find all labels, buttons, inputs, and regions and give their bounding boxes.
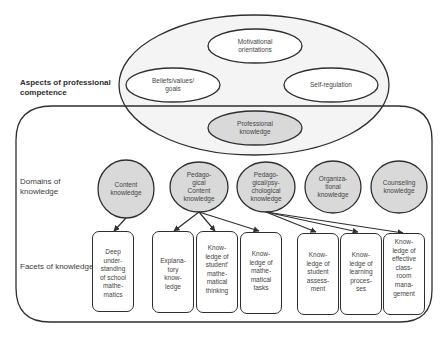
label-aspects: Aspects of professional competence: [20, 78, 111, 98]
arrow-ppk-assessment: [266, 212, 316, 232]
arrows: [114, 212, 403, 233]
domain-counseling-text: Counseling knowledge: [372, 168, 426, 206]
facet-classroom-text: Know- ledge of effective class- room man…: [392, 238, 416, 298]
domain-content-text: Content knowledge: [100, 170, 152, 208]
arrow-content-deep: [114, 218, 126, 231]
domain-organizational-text: Organiza- tional knowledge: [306, 168, 360, 206]
aspect-beliefs-text: Beliefs/values/ goals: [126, 69, 220, 101]
domain-pck-text: Pedago- gical Content knowledge: [172, 165, 226, 209]
facet-classroom: Know- ledge of effective class- room man…: [383, 233, 425, 315]
arrow-ppk-learning: [266, 212, 358, 232]
facet-assessment-text: Know- ledge of student assess- ment: [306, 251, 329, 294]
facet-learning-text: Know- ledge of learning proces- ses: [349, 251, 372, 294]
facet-deep-understanding: Deep under- standing of school mathe- ma…: [92, 231, 134, 312]
facet-explanatory-text: Explana- tory know- ledge: [160, 257, 186, 291]
aspect-motivational-text: Motivational orientations: [208, 30, 302, 62]
facet-math-tasks: Know- ledge of mathe- matical tasks: [240, 232, 282, 314]
label-domains: Domains of knowledge: [20, 177, 60, 197]
facet-assessment: Know- ledge of student assess- ment: [297, 233, 339, 315]
facet-student-thinking: Know- ledge of student' mathe- matical t…: [196, 231, 238, 313]
arrow-pck-explanatory: [174, 212, 199, 231]
arrow-ppk-classroom: [266, 212, 403, 233]
facet-student-thinking-text: Know- ledge of student' mathe- matical t…: [205, 244, 228, 296]
aspect-professional-knowledge-text: Professional knowledge: [208, 112, 302, 144]
facet-learning: Know- ledge of learning proces- ses: [340, 233, 382, 315]
arrow-pck-tasks: [199, 212, 259, 231]
domain-ppk-text: Pedago- gical/psy- chological knowledge: [239, 165, 293, 209]
facet-explanatory: Explana- tory know- ledge: [152, 231, 194, 313]
facet-math-tasks-text: Know- ledge of mathe- matical tasks: [249, 250, 272, 293]
label-facets: Facets of knowledge: [20, 262, 93, 272]
facet-deep-understanding-text: Deep under- standing of school mathe- ma…: [100, 248, 126, 300]
aspect-self-regulation-text: Self-regulation: [284, 69, 378, 101]
